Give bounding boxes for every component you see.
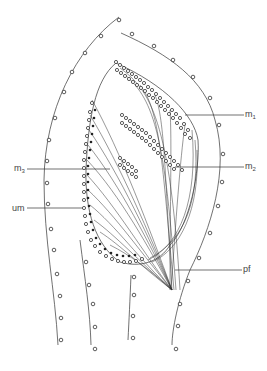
label-m1-base: m	[245, 109, 253, 119]
label-m2-sub: 2	[253, 166, 256, 172]
label-m3-sub: 3	[22, 168, 25, 174]
label-m1-sub: 1	[253, 114, 256, 120]
label-pf-base: pf	[243, 264, 251, 274]
m3-cluster	[118, 156, 137, 178]
outer-contour-left	[44, 17, 119, 345]
label-pf: pf	[243, 265, 251, 274]
label-um: um	[12, 204, 25, 213]
label-um-base: um	[12, 203, 25, 213]
diagram-canvas	[0, 0, 267, 371]
nuclei-dots	[45, 18, 225, 351]
label-m1: m1	[245, 110, 256, 120]
label-m2: m2	[245, 162, 256, 172]
label-m2-base: m	[245, 161, 253, 171]
label-m3: m3	[14, 164, 25, 174]
m2-band	[120, 113, 183, 171]
label-m3-base: m	[14, 163, 22, 173]
fiber-bundle	[87, 68, 197, 290]
inner-contour-a	[80, 240, 91, 345]
inner-contour-b	[128, 275, 131, 340]
